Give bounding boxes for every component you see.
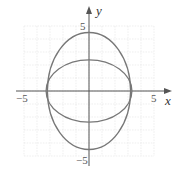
y-max-tick-label: 5 <box>80 20 86 32</box>
y-min-tick-label: −5 <box>76 154 88 166</box>
x-axis-label: x <box>165 93 171 109</box>
y-axis-arrow-icon <box>86 6 92 14</box>
x-min-tick-label: −5 <box>16 92 28 104</box>
coordinate-plane <box>0 0 182 178</box>
y-axis-label: y <box>96 3 102 19</box>
x-max-tick-label: 5 <box>151 92 157 104</box>
